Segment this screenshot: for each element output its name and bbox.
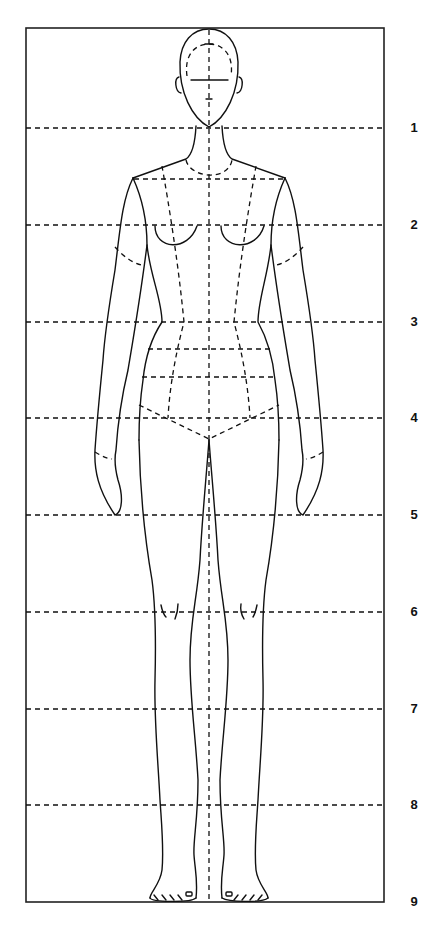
head-number-9: 9: [407, 895, 421, 909]
head-number-5: 5: [407, 508, 421, 522]
head-number-1: 1: [407, 121, 421, 135]
head-guide-lines: [26, 128, 384, 805]
head-number-3: 3: [407, 315, 421, 329]
proportion-frame: [26, 28, 384, 902]
head-number-8: 8: [407, 798, 421, 812]
head-number-2: 2: [407, 218, 421, 232]
head-number-7: 7: [407, 702, 421, 716]
head-number-6: 6: [407, 605, 421, 619]
croquis-figure-diagram: [0, 0, 447, 928]
head-number-4: 4: [407, 411, 421, 425]
